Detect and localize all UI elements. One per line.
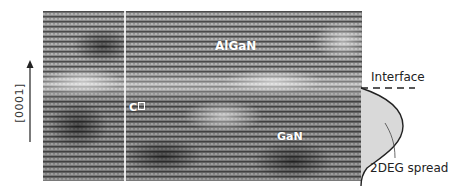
marker-label-text: C [129,101,137,114]
tem-micrograph: AlGaN GaN C [43,11,362,181]
interface-label: Interface [371,70,425,84]
figure: [0001] [0,0,450,186]
lattice-image [43,11,362,181]
marker-line [124,11,126,181]
gan-layer-label: GaN [277,130,303,143]
algan-layer-label: AlGaN [215,39,256,53]
up-arrow-icon [26,60,34,142]
crystal-direction-label: [0001] [13,83,27,123]
box-glyph-icon [138,102,145,110]
marker-label: C [129,101,145,114]
2deg-spread-label: 2DEG spread [370,161,448,175]
